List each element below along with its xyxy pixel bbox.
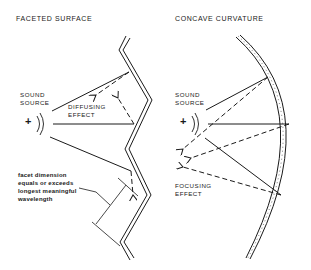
left-diffused-rays (96, 72, 134, 195)
left-incident-rays (50, 72, 134, 171)
right-source-waves (192, 113, 199, 135)
right-sound-source-icon: + (180, 115, 187, 127)
diffusing-effect-label-1: DIFFUSING (68, 103, 106, 111)
left-source-label-2: SOURCE (20, 99, 49, 107)
concave-wall (236, 35, 286, 259)
diagram-canvas (0, 0, 311, 270)
faceted-surface-title: FACETED SURFACE (16, 15, 92, 22)
facet-annotation-4: wavelength (18, 195, 53, 203)
concave-curvature-title: CONCAVE CURVATURE (175, 15, 264, 22)
left-source-waves (37, 113, 44, 135)
focusing-effect-label-2: EFFECT (175, 190, 202, 198)
diffusing-effect-label-2: EFFECT (68, 111, 95, 119)
left-source-label-1: SOUND (20, 91, 45, 99)
facet-annotation-1: facet dimension (18, 171, 67, 179)
focusing-effect-label-1: FOCUSING (175, 182, 212, 190)
faceted-wall (119, 36, 152, 260)
right-source-label-1: SOUND (175, 91, 200, 99)
left-sound-source-icon: + (25, 115, 32, 127)
facet-annotation-2: equals or exceeds (18, 179, 73, 187)
facet-annotation-3: longest meaningful (18, 187, 77, 195)
right-source-label-2: SOURCE (175, 99, 204, 107)
facet-dimension-marker (79, 178, 138, 246)
